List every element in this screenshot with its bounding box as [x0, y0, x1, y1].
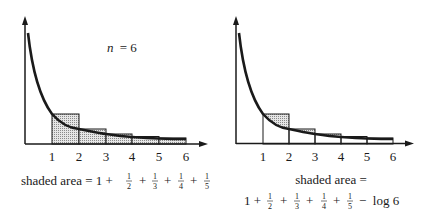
tick-5: 5 — [156, 149, 163, 164]
svg-text:1: 1 — [153, 172, 157, 181]
svg-text:1: 1 — [348, 192, 352, 201]
right-graph: 1 2 3 4 5 6 — [233, 16, 414, 164]
tick-2: 2 — [76, 149, 83, 164]
right-fraction-1-4: 1 4 — [321, 192, 327, 211]
left-y-arrow-icon — [22, 16, 28, 25]
svg-text:+: + — [139, 173, 146, 188]
tick-2: 2 — [286, 149, 293, 164]
tick-1: 1 — [260, 149, 267, 164]
right-caption: shaded area = 1 + 1 2 + 1 3 + 1 4 + 1 5 … — [244, 172, 400, 211]
svg-text:1: 1 — [127, 172, 131, 181]
tick-4: 4 — [129, 149, 136, 164]
tick-3: 3 — [103, 149, 110, 164]
right-y-arrow-icon — [233, 16, 239, 25]
right-fraction-1-5: 1 5 — [347, 192, 353, 211]
svg-text:5: 5 — [348, 202, 352, 211]
svg-text:+: + — [190, 173, 197, 188]
left-fraction-1-2: 1 2 — [126, 172, 132, 191]
svg-text:+: + — [333, 193, 340, 208]
svg-text:+: + — [164, 173, 171, 188]
tick-1: 1 — [49, 149, 56, 164]
svg-text:3: 3 — [295, 202, 299, 211]
right-tick-labels: 1 2 3 4 5 6 — [260, 149, 397, 164]
svg-text:1: 1 — [322, 192, 326, 201]
svg-text:5: 5 — [205, 182, 209, 191]
svg-text:3: 3 — [153, 182, 157, 191]
tick-6: 6 — [183, 149, 190, 164]
svg-text:2: 2 — [268, 202, 272, 211]
tick-4: 4 — [338, 149, 345, 164]
svg-text:2: 2 — [127, 182, 131, 191]
right-curve — [239, 33, 393, 139]
tick-3: 3 — [312, 149, 319, 164]
svg-text:+: + — [280, 193, 287, 208]
left-caption-prefix: shaded area = 1 + — [21, 173, 113, 188]
svg-text:4: 4 — [179, 182, 183, 191]
svg-text:1: 1 — [179, 172, 183, 181]
svg-text:+: + — [306, 193, 313, 208]
right-x-arrow-icon — [405, 141, 414, 147]
minus-log-6: − log 6 — [359, 193, 400, 208]
right-fraction-1-3: 1 3 — [294, 192, 300, 211]
left-fraction-1-5: 1 5 — [204, 172, 210, 191]
left-x-arrow-icon — [199, 141, 208, 147]
left-caption: shaded area = 1 + 1 2 + 1 3 + 1 4 + 1 5 — [21, 172, 210, 191]
right-fraction-1-2: 1 2 — [267, 192, 273, 211]
n-annotation: n = 6 — [107, 40, 137, 55]
right-caption-line1: shaded area = — [295, 172, 367, 187]
svg-text:1: 1 — [268, 192, 272, 201]
svg-text:4: 4 — [322, 202, 326, 211]
left-fraction-1-3: 1 3 — [152, 172, 158, 191]
left-tick-labels: 1 2 3 4 5 6 — [49, 149, 190, 164]
tick-5: 5 — [364, 149, 371, 164]
left-graph: 1 2 3 4 5 6 n = 6 — [22, 16, 208, 164]
svg-text:1: 1 — [295, 192, 299, 201]
tick-6: 6 — [390, 149, 397, 164]
left-fraction-1-4: 1 4 — [178, 172, 184, 191]
harmonic-sum-diagram: 1 2 3 4 5 6 n = 6 shaded area = 1 + 1 2 … — [0, 0, 439, 222]
svg-text:1: 1 — [205, 172, 209, 181]
right-caption-start: 1 + — [244, 193, 261, 208]
